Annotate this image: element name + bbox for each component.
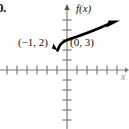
y-axis-arrowhead (64, 4, 69, 10)
curve-arrowhead (107, 21, 121, 28)
x-axis-label: x (121, 72, 125, 82)
point-label-a-pointer (52, 44, 58, 51)
point-label-minus1-2: (−1, 2) (18, 37, 48, 48)
x-axis-arrowhead (125, 67, 129, 73)
graph-figure: 0. (0, 0, 129, 129)
point-label-0-3: (0, 3) (70, 37, 94, 48)
function-label: f(x) (76, 3, 91, 14)
coordinate-plot (0, 0, 129, 129)
